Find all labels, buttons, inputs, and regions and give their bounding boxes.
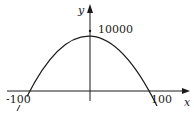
parabola-chart: y x 10000 -100 100 (0, 0, 194, 115)
parabola-curve (27, 36, 157, 106)
y-intercept-point (89, 30, 91, 32)
y-axis-label: y (77, 4, 85, 17)
x-neg-intercept-label: -100 (6, 93, 31, 106)
x-axis-arrow-icon (182, 88, 190, 94)
y-axis-arrow-icon (87, 4, 93, 13)
y-intercept-label: 10000 (98, 23, 133, 36)
x-axis-label: x (184, 96, 191, 109)
x-pos-intercept-label: 100 (151, 93, 172, 106)
